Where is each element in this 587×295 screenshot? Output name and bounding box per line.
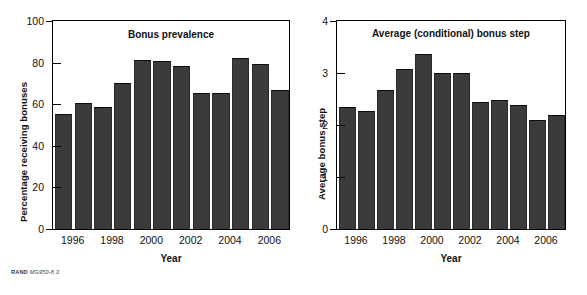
y-axis-tick-label: 4 <box>322 15 328 27</box>
y-axis-tick-label: 0 <box>38 223 44 235</box>
bar <box>529 120 546 229</box>
y-axis-tick-label: 60 <box>32 98 44 110</box>
y-axis-tick <box>337 73 345 74</box>
bar <box>377 90 394 229</box>
chart-panel-average-bonus-step: Average bonus step Average (conditional)… <box>300 0 587 295</box>
source-code: MG950-8.3 <box>30 269 59 275</box>
y-axis-title: Percentage receiving bonuses <box>18 82 29 222</box>
x-axis-tick-label: 1996 <box>344 234 367 246</box>
y-axis-tick <box>46 229 53 230</box>
y-axis-tick <box>337 177 345 178</box>
y-axis-tick <box>53 146 61 147</box>
y-axis-tick <box>330 229 337 230</box>
bar <box>75 103 92 229</box>
bar <box>548 115 565 229</box>
x-axis-tick-label: 2000 <box>420 234 443 246</box>
bar <box>193 93 210 229</box>
y-axis-tick-label: 40 <box>32 140 44 152</box>
bar <box>271 90 288 229</box>
x-axis-tick-label: 2006 <box>534 234 557 246</box>
bar <box>252 64 269 229</box>
y-axis-tick <box>337 125 345 126</box>
bar <box>212 93 229 229</box>
y-axis-tick-label: 0 <box>322 223 328 235</box>
x-axis-tick-label: 2000 <box>140 234 163 246</box>
bar <box>55 114 72 229</box>
y-axis-tick-label: 1 <box>322 171 328 183</box>
bar <box>114 83 131 229</box>
y-axis-tick <box>53 187 61 188</box>
x-axis-tick-label: 1998 <box>382 234 405 246</box>
y-axis-tick <box>330 21 337 22</box>
figure-bonus-charts: Percentage receiving bonuses Bonus preva… <box>0 0 587 295</box>
bar <box>358 111 375 229</box>
bar <box>434 73 451 229</box>
bar <box>396 69 413 229</box>
bar <box>510 105 527 229</box>
bar <box>134 60 151 229</box>
plot-area-average-bonus-step: Average (conditional) bonus step 01234 1… <box>336 20 566 230</box>
x-axis-tick-labels: 199619982000200220042006 <box>337 229 565 249</box>
source-note: RANDMG950-8.3 <box>11 269 59 275</box>
y-axis-tick-label: 3 <box>322 67 328 79</box>
x-axis-title: Year <box>53 253 289 264</box>
bar-series <box>337 21 565 229</box>
bar <box>491 100 508 229</box>
x-axis-tick-label: 2006 <box>258 234 281 246</box>
x-axis-tick-label: 2002 <box>179 234 202 246</box>
y-axis-tick-label: 100 <box>26 15 44 27</box>
y-axis-tick-label: 20 <box>32 181 44 193</box>
x-axis-tick-label: 2004 <box>218 234 241 246</box>
y-axis-tick-label: 2 <box>322 119 328 131</box>
y-axis-tick <box>53 104 61 105</box>
bar <box>173 66 190 229</box>
x-axis-tick-labels: 199619982000200220042006 <box>53 229 289 249</box>
bar <box>453 73 470 229</box>
y-axis-tick-label: 80 <box>32 57 44 69</box>
x-axis-tick-label: 2004 <box>496 234 519 246</box>
bar <box>153 61 170 229</box>
bar <box>472 102 489 229</box>
y-axis-tick <box>53 63 61 64</box>
source-org: RAND <box>11 269 28 275</box>
x-axis-tick-label: 1998 <box>100 234 123 246</box>
x-axis-tick-label: 1996 <box>61 234 84 246</box>
x-axis-title: Year <box>337 253 565 264</box>
chart-panel-bonus-prevalence: Percentage receiving bonuses Bonus preva… <box>0 0 300 295</box>
bar <box>415 54 432 229</box>
plot-area-bonus-prevalence: Bonus prevalence 020406080100 1996199820… <box>52 20 290 230</box>
y-axis-tick <box>46 21 53 22</box>
bar-series <box>53 21 289 229</box>
x-axis-tick-label: 2002 <box>458 234 481 246</box>
bar <box>232 58 249 229</box>
bar <box>94 107 111 229</box>
